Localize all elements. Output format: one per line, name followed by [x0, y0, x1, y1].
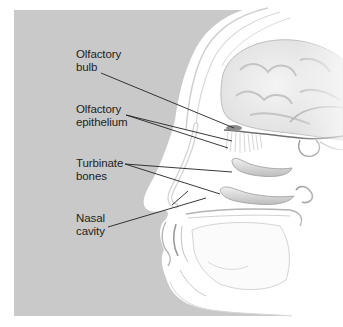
- label-olfactory-epithelium: Olfactory epithelium: [76, 103, 127, 128]
- label-olfactory-epithelium-line1: Olfactory: [76, 103, 127, 116]
- label-nasal-cavity-line2: cavity: [76, 225, 105, 238]
- label-turbinate-bones: Turbinate bones: [76, 157, 123, 182]
- label-nasal-cavity: Nasal cavity: [76, 212, 105, 237]
- label-olfactory-bulb: Olfactory bulb: [76, 48, 121, 73]
- label-olfactory-bulb-line2: bulb: [76, 61, 121, 74]
- label-turbinate-bones-line2: bones: [76, 170, 123, 183]
- label-olfactory-epithelium-line2: epithelium: [76, 116, 127, 129]
- label-nasal-cavity-line1: Nasal: [76, 212, 105, 225]
- label-olfactory-bulb-line1: Olfactory: [76, 48, 121, 61]
- olfactory-anatomy-diagram: Olfactory bulb Olfactory epithelium Turb…: [0, 0, 343, 327]
- head-sagittal-illustration: [0, 0, 343, 327]
- label-turbinate-bones-line1: Turbinate: [76, 157, 123, 170]
